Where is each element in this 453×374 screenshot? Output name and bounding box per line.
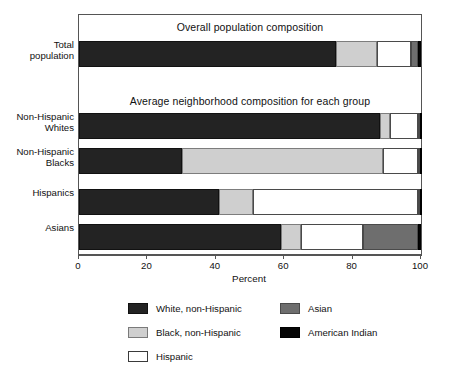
x-tick (78, 254, 79, 259)
bar-segment-hispanic (383, 148, 417, 174)
bar-segment-hispanic (301, 224, 363, 250)
bar-segment-white_nh (79, 148, 182, 174)
x-tick-label: 60 (263, 260, 303, 271)
y-label-non-hispanic-blacks: Non-Hispanic Blacks (0, 146, 74, 169)
legend-label: Hispanic (156, 351, 193, 362)
bar-segment-black_nh (380, 113, 390, 139)
bar-segment-amerind (420, 189, 422, 215)
legend-label: Black, non-Hispanic (156, 327, 241, 338)
x-tick (146, 254, 147, 259)
legend-swatch-hispanic (128, 351, 148, 362)
x-axis-line (78, 254, 420, 255)
legend-item-white-non-hispanic: White, non-Hispanic (128, 303, 242, 314)
bar-segment-amerind (418, 41, 421, 67)
x-axis-title: Percent (78, 273, 420, 284)
x-tick-label: 40 (195, 260, 235, 271)
legend-label: Asian (308, 303, 332, 314)
bar-non-hispanic-blacks (79, 148, 422, 174)
bar-segment-black_nh (219, 189, 253, 215)
legend-label: American Indian (308, 327, 377, 338)
y-label-non-hispanic-whites: Non-Hispanic Whites (0, 111, 74, 134)
y-label-line: Hispanics (32, 187, 74, 198)
x-tick (215, 254, 216, 259)
bar-hispanics (79, 189, 422, 215)
y-label-line: Total (54, 39, 74, 50)
legend-label: White, non-Hispanic (156, 303, 242, 314)
legend-swatch-white-non-hispanic (128, 303, 148, 314)
bar-segment-white_nh (79, 189, 219, 215)
bar-segment-white_nh (79, 113, 380, 139)
legend-item-american-indian: American Indian (280, 327, 377, 338)
x-tick-label: 100 (400, 260, 440, 271)
legend-swatch-american-indian (280, 327, 300, 338)
legend-item-black-non-hispanic: Black, non-Hispanic (128, 327, 241, 338)
bar-segment-white_nh (79, 41, 336, 67)
y-label-line: Whites (45, 122, 74, 133)
y-label-line: Non-Hispanic (16, 111, 74, 122)
y-label-total-population: Total population (0, 39, 74, 62)
x-tick-label: 80 (332, 260, 372, 271)
bar-segment-amerind (420, 148, 422, 174)
panel-title-top: Overall population composition (79, 21, 421, 33)
x-tick (283, 254, 284, 259)
x-tick (352, 254, 353, 259)
figure: Total population Non-Hispanic Whites Non… (0, 0, 453, 374)
x-tick (420, 254, 421, 259)
bar-segment-hispanic (390, 113, 417, 139)
legend-swatch-black-non-hispanic (128, 327, 148, 338)
x-tick-label: 0 (58, 260, 98, 271)
bar-segment-hispanic (377, 41, 411, 67)
y-label-line: Non-Hispanic (16, 146, 74, 157)
bar-asians (79, 224, 421, 250)
bar-segment-amerind (420, 113, 422, 139)
y-label-line: Blacks (46, 157, 74, 168)
bar-segment-black_nh (336, 41, 377, 67)
bar-segment-white_nh (79, 224, 281, 250)
y-label-line: population (30, 50, 74, 61)
bar-non-hispanic-whites (79, 113, 422, 139)
legend-item-hispanic: Hispanic (128, 351, 193, 362)
bar-segment-hispanic (253, 189, 417, 215)
bar-total-population (79, 41, 421, 67)
x-tick-label: 20 (126, 260, 166, 271)
bar-segment-asian (411, 41, 418, 67)
panel-title-bottom: Average neighborhood composition for eac… (79, 95, 421, 107)
legend-item-asian: Asian (280, 303, 332, 314)
bar-segment-amerind (418, 224, 421, 250)
y-label-hispanics: Hispanics (0, 187, 74, 198)
plot-area: Overall population composition Average n… (78, 14, 422, 256)
bar-segment-asian (363, 224, 418, 250)
bar-segment-black_nh (182, 148, 384, 174)
legend-swatch-asian (280, 303, 300, 314)
y-label-asians: Asians (0, 222, 74, 233)
y-label-line: Asians (45, 222, 74, 233)
legend: White, non-Hispanic Black, non-Hispanic … (128, 303, 428, 365)
bar-segment-black_nh (281, 224, 302, 250)
